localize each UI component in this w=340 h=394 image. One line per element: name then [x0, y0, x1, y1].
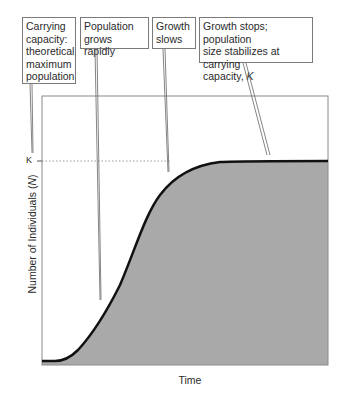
logistic-growth-chart [0, 0, 340, 394]
y-axis-label-prefix: Number of Individuals ( [26, 186, 38, 294]
y-axis-label-suffix: ) [26, 174, 38, 178]
pointer-rapid [95, 49, 101, 300]
pointer-carrying [30, 84, 33, 153]
y-axis-label: Number of Individuals (N) [26, 164, 38, 304]
pointer-stops [243, 63, 270, 155]
pointer-slows [163, 49, 169, 172]
area-under-curve [42, 161, 328, 365]
x-axis-label: Time [140, 374, 240, 386]
y-axis-label-var: N [26, 178, 38, 186]
